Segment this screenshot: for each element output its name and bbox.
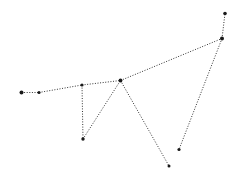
star-s9 — [177, 148, 180, 151]
star-s2 — [37, 91, 40, 94]
star-s6 — [223, 12, 227, 16]
star-s5 — [220, 37, 224, 41]
star-s1 — [20, 91, 24, 95]
star-s8 — [168, 165, 171, 168]
constellation-line-s4-s5 — [121, 39, 223, 81]
constellation-line-s7-s4 — [83, 81, 121, 140]
constellation-line-s5-s9 — [179, 39, 222, 150]
star-s7 — [81, 137, 84, 140]
constellation-line-s3-s7 — [82, 85, 83, 139]
constellation-line-s5-s6 — [222, 14, 225, 39]
constellation-diagram — [0, 0, 242, 183]
star-s4 — [119, 79, 123, 83]
constellation-line-s4-s8 — [121, 81, 170, 167]
constellation-stars — [20, 12, 227, 168]
constellation-line-s2-s3 — [39, 85, 82, 93]
constellation-lines — [22, 14, 226, 167]
star-s3 — [80, 83, 83, 86]
constellation-line-s3-s4 — [82, 81, 121, 86]
